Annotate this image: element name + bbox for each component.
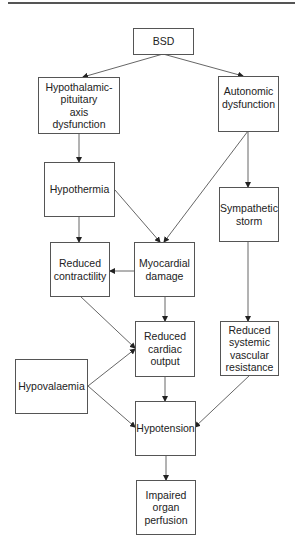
node-impaired-organ-perfusion: Impaired organ perfusion [136, 480, 196, 535]
node-hypovolaemia: Hypovalaemia [15, 359, 88, 414]
node-hypotension: Hypotension [135, 401, 196, 456]
node-reduced-cardiac-output: Reduced cardiac output [135, 321, 195, 377]
node-reduced-contractility: Reduced contractility [50, 242, 110, 297]
node-hypothermia: Hypothermia [44, 162, 115, 217]
node-hpa-dysfunction: Hypothalamic- pituitary axis dysfunction [38, 77, 120, 134]
node-sympathetic-storm: Sympathetic storm [219, 187, 279, 242]
node-myocardial-damage: Myocardial damage [134, 242, 195, 297]
node-autonomic-dysfunction: Autonomic dysfunction [218, 76, 279, 132]
node-bsd: BSD [133, 28, 194, 55]
node-reduced-svr: Reduced systemic vascular resistance [220, 321, 279, 376]
